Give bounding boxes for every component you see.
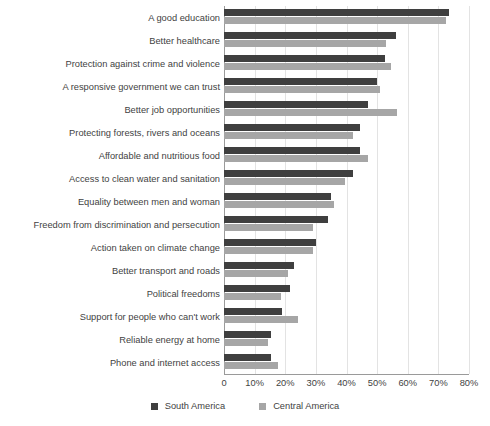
bar-group [224,213,490,236]
bar-group [224,282,490,305]
bar-group [224,351,490,374]
category-label: Affordable and nutritious food [99,150,220,161]
bar-south-america [224,78,377,85]
legend-swatch-icon [259,403,266,410]
bar-rows: A good educationBetter healthcareProtect… [0,6,490,374]
bar-group [224,98,490,121]
bar-group [224,305,490,328]
x-tick-label: 60% [398,377,417,390]
bar-south-america [224,331,271,338]
bar-south-america [224,9,449,16]
bar-central-america [224,178,345,185]
legend-label: South America [165,400,225,412]
bar-row: Reliable energy at home [0,328,490,351]
bar-row: Better transport and roads [0,259,490,282]
bar-row: Protection against crime and violence [0,52,490,75]
bar-group [224,29,490,52]
bar-south-america [224,216,328,223]
bar-south-america [224,101,368,108]
bar-group [224,6,490,29]
bar-row: Action taken on climate change [0,236,490,259]
bar-central-america [224,224,313,231]
x-tick-label: 0 [221,377,226,390]
bar-central-america [224,316,298,323]
bar-central-america [224,247,313,254]
bar-south-america [224,262,294,269]
bar-group [224,167,490,190]
bar-central-america [224,339,268,346]
category-label: Better transport and roads [112,265,220,276]
bar-south-america [224,55,385,62]
bar-row: Equality between men and woman [0,190,490,213]
bar-group [224,328,490,351]
category-axis-line [224,374,469,375]
bar-central-america [224,86,380,93]
category-label: Action taken on climate change [91,242,220,253]
x-axis-tick-labels: 010%20%30%40%50%60%70%80% [224,377,469,393]
bar-row: A responsive government we can trust [0,75,490,98]
bar-group [224,236,490,259]
category-label: Equality between men and woman [78,196,220,207]
bar-central-america [224,293,281,300]
bar-south-america [224,239,316,246]
bar-group [224,121,490,144]
bar-group [224,75,490,98]
bar-central-america [224,155,368,162]
category-label: Freedom from discrimination and persecut… [33,219,220,230]
bar-group [224,52,490,75]
bar-south-america [224,147,360,154]
category-label: Better job opportunities [124,104,220,115]
bar-row: Freedom from discrimination and persecut… [0,213,490,236]
bar-group [224,259,490,282]
bar-row: Better healthcare [0,29,490,52]
bar-row: Better job opportunities [0,98,490,121]
bar-central-america [224,17,446,24]
bar-row: Political freedoms [0,282,490,305]
legend-item[interactable]: South America [151,400,225,412]
chart-legend: South AmericaCentral America [0,400,490,412]
category-label: Reliable energy at home [119,334,220,345]
legend-label: Central America [273,400,339,412]
bar-central-america [224,132,353,139]
category-label: A responsive government we can trust [62,81,220,92]
bar-central-america [224,201,334,208]
bar-group [224,190,490,213]
bar-south-america [224,308,282,315]
category-label: Phone and internet access [110,357,220,368]
bar-south-america [224,285,290,292]
legend-item[interactable]: Central America [259,400,339,412]
bar-row: Protecting forests, rivers and oceans [0,121,490,144]
x-tick-label: 50% [368,377,387,390]
legend-swatch-icon [151,403,158,410]
bar-central-america [224,40,386,47]
x-tick-label: 20% [276,377,295,390]
category-label: Better healthcare [149,35,220,46]
bar-row: Affordable and nutritious food [0,144,490,167]
x-tick-label: 80% [460,377,479,390]
category-label: Protecting forests, rivers and oceans [69,127,220,138]
bar-south-america [224,193,331,200]
category-label: A good education [148,12,220,23]
x-tick-label: 10% [245,377,264,390]
bar-south-america [224,354,271,361]
bar-row: Phone and internet access [0,351,490,374]
bar-row: Support for people who can't work [0,305,490,328]
bar-south-america [224,32,396,39]
bar-chart: A good educationBetter healthcareProtect… [0,0,490,426]
category-label: Protection against crime and violence [65,58,220,69]
x-tick-label: 70% [429,377,448,390]
category-label: Support for people who can't work [80,311,220,322]
bar-row: Access to clean water and sanitation [0,167,490,190]
bar-south-america [224,124,360,131]
bar-central-america [224,362,278,369]
bar-central-america [224,63,391,70]
bar-central-america [224,270,288,277]
x-tick-label: 30% [307,377,326,390]
category-label: Access to clean water and sanitation [69,173,220,184]
bar-central-america [224,109,397,116]
bar-group [224,144,490,167]
x-tick-label: 40% [337,377,356,390]
bar-row: A good education [0,6,490,29]
plot-area: A good educationBetter healthcareProtect… [0,0,490,380]
category-label: Political freedoms [147,288,220,299]
